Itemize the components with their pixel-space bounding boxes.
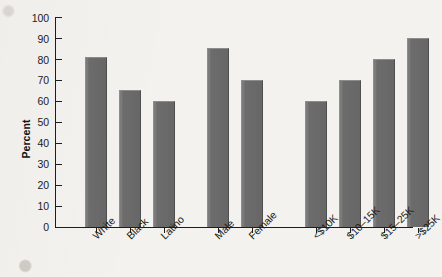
y-axis-tick: 20 bbox=[55, 185, 62, 186]
bar bbox=[339, 80, 361, 227]
y-axis-title: Percent bbox=[20, 119, 32, 158]
y-axis-tick: 70 bbox=[55, 80, 62, 81]
y-axis-tick: 80 bbox=[55, 59, 62, 60]
y-axis-tick-label: 40 bbox=[38, 137, 49, 149]
y-axis-tick: 50 bbox=[55, 122, 62, 123]
y-axis-tick: 100 bbox=[55, 17, 62, 18]
bar bbox=[85, 57, 107, 227]
bar bbox=[373, 59, 395, 227]
y-axis-tick: 90 bbox=[55, 38, 62, 39]
y-axis-tick-label: 20 bbox=[38, 179, 49, 191]
y-axis-tick-label: 0 bbox=[43, 221, 49, 233]
bar bbox=[119, 90, 141, 226]
y-axis-tick: 60 bbox=[55, 101, 62, 102]
y-axis-tick: 10 bbox=[55, 206, 62, 207]
y-axis-tick-label: 80 bbox=[38, 54, 49, 66]
y-axis-tick-label: 90 bbox=[38, 33, 49, 45]
bar bbox=[407, 38, 429, 227]
y-axis-tick: 40 bbox=[55, 143, 62, 144]
y-axis-tick-label: 100 bbox=[32, 12, 49, 24]
y-axis-tick-label: 50 bbox=[38, 116, 49, 128]
y-axis-tick: 0 bbox=[55, 227, 62, 228]
y-axis-tick-label: 30 bbox=[38, 158, 49, 170]
y-axis-tick-label: 60 bbox=[38, 95, 49, 107]
y-axis-tick: 30 bbox=[55, 164, 62, 165]
bar bbox=[207, 48, 229, 226]
y-axis-tick-label: 10 bbox=[38, 200, 49, 212]
bar bbox=[305, 101, 327, 227]
y-axis-tick-label: 70 bbox=[38, 74, 49, 86]
bar bbox=[241, 80, 263, 227]
bar bbox=[153, 101, 175, 227]
plot-area: 1009080706050403020100 bbox=[55, 17, 413, 228]
